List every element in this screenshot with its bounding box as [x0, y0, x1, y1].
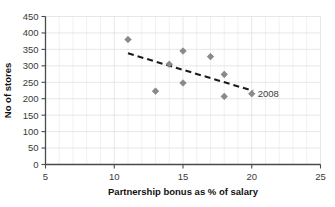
y-tick-label: 450 [23, 11, 39, 22]
x-tick-label: 5 [43, 171, 48, 182]
x-tick-label: 10 [109, 171, 120, 182]
y-tick-label: 400 [23, 27, 39, 38]
x-tick-label: 25 [315, 171, 326, 182]
data-point-marker [248, 90, 255, 97]
data-point-marker [207, 53, 214, 60]
y-tick-label: 300 [23, 60, 39, 71]
x-axis-title: Partnership bonus as % of salary [108, 186, 259, 197]
x-tick-label: 15 [178, 171, 189, 182]
y-axis-tick-labels: 050100150200250300350400450 [23, 11, 39, 170]
data-point-marker [180, 80, 187, 87]
annotation-2008: 2008 [258, 88, 279, 99]
point-annotations: 2008 [258, 88, 279, 99]
data-point-marker [180, 48, 187, 55]
y-tick-label: 350 [23, 44, 39, 55]
y-tick-label: 100 [23, 126, 39, 137]
chart-canvas: 050100150200250300350400450 510152025 20… [0, 0, 335, 207]
y-tick-label: 150 [23, 110, 39, 121]
y-axis-title: No of stores [2, 63, 13, 118]
scatter-chart: 050100150200250300350400450 510152025 20… [0, 0, 335, 207]
y-tick-label: 50 [28, 142, 39, 153]
data-point-marker [125, 36, 132, 43]
y-tick-label: 250 [23, 77, 39, 88]
x-tick-label: 20 [246, 171, 257, 182]
y-tick-label: 0 [33, 159, 38, 170]
trend-line [128, 53, 253, 90]
grid-minor-vertical [46, 17, 321, 165]
data-point-marker [221, 71, 228, 78]
x-axis-tick-labels: 510152025 [43, 171, 326, 182]
data-points [125, 36, 255, 99]
y-tick-label: 200 [23, 93, 39, 104]
data-point-marker [152, 88, 159, 95]
